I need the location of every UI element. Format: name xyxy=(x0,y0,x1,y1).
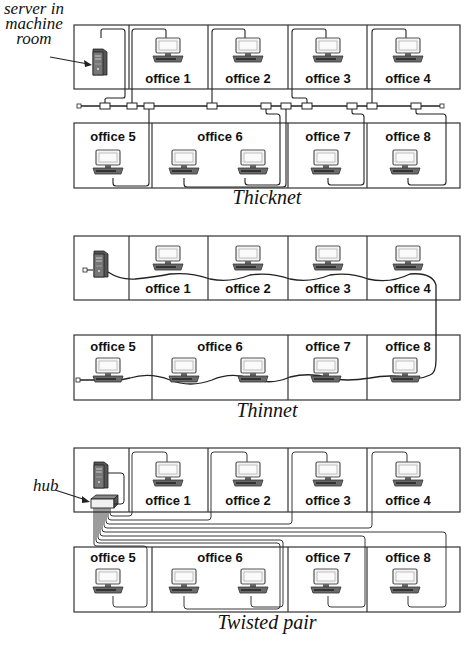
twisted-pair-diagram xyxy=(55,448,460,612)
thicknet-office-6-label: office 6 xyxy=(197,129,243,144)
twisted-office-3-label: office 3 xyxy=(305,493,351,508)
thicknet-office-5-label: office 5 xyxy=(90,129,136,144)
thicknet-office-8-label: office 8 xyxy=(385,129,431,144)
thicknet-office-7-label: office 7 xyxy=(305,129,351,144)
thinnet-office-7-label: office 7 xyxy=(305,339,351,354)
hub-annotation: hub xyxy=(33,478,59,493)
diagram-graphics xyxy=(0,0,469,645)
twisted-office-6-label: office 6 xyxy=(197,550,243,565)
twisted-office-7-label: office 7 xyxy=(305,550,351,565)
thinnet-office-5-label: office 5 xyxy=(90,339,136,354)
thinnet-office-1-label: office 1 xyxy=(145,281,191,296)
thicknet-caption: Thicknet xyxy=(233,186,302,209)
twisted-office-1-label: office 1 xyxy=(145,493,191,508)
thinnet-office-6-label: office 6 xyxy=(197,339,243,354)
thicknet-office-1-label: office 1 xyxy=(145,71,191,86)
thicknet-office-4-label: office 4 xyxy=(385,71,431,86)
twisted-office-4-label: office 4 xyxy=(385,493,431,508)
thinnet-office-4-label: office 4 xyxy=(385,281,431,296)
thinnet-diagram xyxy=(74,236,460,400)
twisted-office-5-label: office 5 xyxy=(90,550,136,565)
network-cabling-diagram: server in machine room office 1 office 2… xyxy=(0,0,469,645)
twisted-office-2-label: office 2 xyxy=(225,493,271,508)
thinnet-caption: Thinnet xyxy=(236,399,297,422)
thicknet-office-3-label: office 3 xyxy=(305,71,351,86)
thicknet-office-2-label: office 2 xyxy=(225,71,271,86)
thinnet-office-3-label: office 3 xyxy=(305,281,351,296)
server-annotation: server in machine room xyxy=(4,1,64,46)
twisted-office-8-label: office 8 xyxy=(385,550,431,565)
thicknet-diagram xyxy=(50,25,460,188)
thinnet-office-2-label: office 2 xyxy=(225,281,271,296)
twisted-pair-caption: Twisted pair xyxy=(217,611,316,634)
thinnet-office-8-label: office 8 xyxy=(385,339,431,354)
annotation-line-3: room xyxy=(4,31,64,46)
